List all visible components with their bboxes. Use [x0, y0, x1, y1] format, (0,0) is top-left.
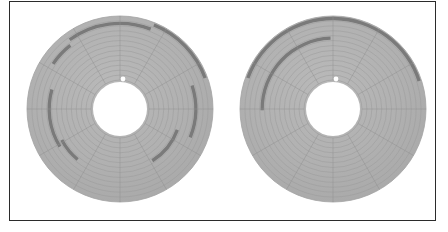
left-platter: [27, 16, 213, 202]
platters-layer: [27, 16, 426, 202]
disk-platter-diagram: [0, 0, 448, 232]
figure-root: [0, 0, 448, 232]
index-dot: [334, 77, 339, 82]
spindle-hole: [93, 82, 147, 136]
index-dot: [121, 77, 126, 82]
spindle-hole: [306, 82, 360, 136]
right-platter: [240, 16, 426, 202]
